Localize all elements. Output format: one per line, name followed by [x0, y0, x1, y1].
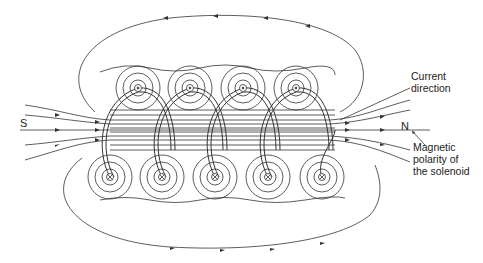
current-out-icons — [135, 85, 300, 92]
current-direction-pointer — [340, 88, 410, 120]
field-direction-arrows — [55, 14, 385, 252]
polarity-label: Magnetic polarity of the solenoid — [413, 141, 470, 177]
polarity-label-line-3: the solenoid — [413, 165, 470, 177]
coil-turns — [102, 88, 335, 177]
south-pole-label: S — [20, 117, 27, 129]
polarity-label-line-2: polarity of — [413, 153, 470, 165]
solenoid-field-diagram — [0, 0, 483, 263]
north-pole-label: N — [401, 120, 409, 132]
current-in-icons — [107, 174, 326, 181]
polarity-label-line-1: Magnetic — [413, 141, 470, 153]
current-direction-label: Current direction — [411, 70, 451, 94]
axial-field-lines — [20, 100, 430, 162]
current-label-line-2: direction — [411, 82, 451, 94]
current-label-line-1: Current — [411, 70, 451, 82]
